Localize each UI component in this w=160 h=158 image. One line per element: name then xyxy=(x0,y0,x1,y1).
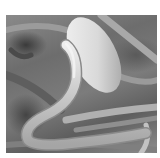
micrograph-photo xyxy=(6,15,157,153)
micrograph-illustration xyxy=(6,15,157,153)
